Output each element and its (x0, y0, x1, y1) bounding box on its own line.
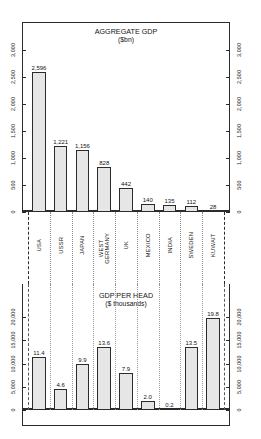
axis-tick (226, 364, 230, 365)
bar-value-label: 19.8 (202, 311, 224, 317)
axis-tick (226, 50, 230, 51)
category-label-ussr: USSR (57, 215, 63, 275)
category-label-uk: UK (123, 215, 129, 275)
top-plot-area: 005005001,0001,0001,5001,5002,0002,0002,… (22, 22, 230, 212)
category-label-japan: JAPAN (79, 215, 85, 275)
band-separator (202, 212, 203, 284)
axis-tick (22, 158, 26, 159)
bar-value-label: 140 (137, 197, 159, 203)
axis-tick-label: 10,000 (236, 355, 242, 372)
band-separator (72, 212, 73, 284)
axis-tick-label: 20,000 (10, 309, 16, 326)
category-guide-line (93, 284, 94, 410)
axis-tick (226, 387, 230, 388)
axis-tick (22, 387, 26, 388)
axis-tick (22, 50, 26, 51)
bottom-plot-area: 005,0005,00010,00010,00015,00015,00020,0… (22, 284, 230, 426)
category-label-line: USA (36, 215, 42, 275)
bar (97, 167, 111, 212)
axis-tick (22, 317, 26, 318)
category-guide-line-end (224, 284, 225, 410)
axis-tick (22, 364, 26, 365)
bar (185, 347, 199, 410)
bar-value-label: 7.9 (115, 366, 137, 372)
axis-tick-label: 500 (236, 180, 242, 189)
axis-tick (22, 410, 26, 411)
bar (54, 389, 68, 410)
bar-value-label: 0.2 (159, 402, 181, 408)
axis-tick-label: 3,000 (10, 43, 16, 57)
axis-tick-label: 2,000 (236, 97, 242, 111)
category-label-line: GERMANY (104, 218, 110, 278)
bar (141, 401, 155, 410)
band-separator (50, 212, 51, 284)
band-separator (159, 212, 160, 284)
bar-value-label: 13.5 (180, 340, 202, 346)
axis-tick-label: 15,000 (236, 332, 242, 349)
bar-value-label: 112 (180, 199, 202, 205)
category-guide-line-start (28, 284, 29, 410)
band-edge-right (224, 212, 225, 284)
axis-tick (22, 340, 26, 341)
bar-value-label: 28 (202, 204, 224, 210)
category-guide-line (137, 284, 138, 410)
axis-tick-label: 1,500 (236, 124, 242, 138)
axis-tick-label: 500 (10, 180, 16, 189)
axis-tick-label: 0 (10, 210, 16, 213)
category-guide-line (72, 284, 73, 410)
axis-tick (226, 158, 230, 159)
bar-value-label: 11.4 (28, 350, 50, 356)
bar-value-label: 9.9 (72, 357, 94, 363)
axis-tick-label: 20,000 (236, 309, 242, 326)
axis-tick-label: 0 (236, 408, 242, 411)
category-guide-line (202, 284, 203, 410)
axis-tick-label: 1,500 (10, 124, 16, 138)
axis-tick-label: 1,000 (236, 151, 242, 165)
bar-value-label: 828 (93, 160, 115, 166)
axis-tick (226, 317, 230, 318)
axis-tick-label: 10,000 (10, 355, 16, 372)
band-separator (93, 212, 94, 284)
axis-tick (22, 185, 26, 186)
bar (163, 408, 177, 410)
aggregate-gdp-chart: AGGREGATE GDP ($bn) 005005001,0001,0001,… (22, 22, 230, 212)
category-label-line: INDIA (166, 215, 172, 275)
axis-tick-label: 2,500 (236, 70, 242, 84)
gdp-per-head-chart: GDP PER HEAD ($ thousands) 005,0005,0001… (22, 284, 230, 426)
category-label-band: USAUSSRJAPANWESTGERMANYUKMEXICOINDIASWED… (22, 212, 230, 284)
band-edge-left (28, 212, 29, 284)
bar (141, 204, 155, 212)
category-label-line: USSR (57, 215, 63, 275)
category-label-line: JAPAN (79, 215, 85, 275)
category-label-india: INDIA (166, 215, 172, 275)
axis-tick-label: 2,500 (10, 70, 16, 84)
axis-tick-label: 15,000 (10, 332, 16, 349)
category-guide-line (115, 284, 116, 410)
category-label-west-germany: WESTGERMANY (98, 218, 111, 278)
category-label-line: UK (123, 215, 129, 275)
bar (119, 188, 133, 212)
category-label-kuwait: KUWAIT (210, 215, 216, 275)
band-separator (137, 212, 138, 284)
band-separator (180, 212, 181, 284)
chart-page: AGGREGATE GDP ($bn) 005005001,0001,0001,… (0, 0, 261, 439)
category-label-sweden: SWEDEN (188, 215, 194, 275)
axis-tick-label: 5,000 (10, 380, 16, 394)
band-separator (115, 212, 116, 284)
axis-tick (22, 131, 26, 132)
bar-value-label: 1,156 (72, 143, 94, 149)
bar (76, 150, 90, 212)
axis-tick-label: 2,000 (10, 97, 16, 111)
bar-value-label: 442 (115, 181, 137, 187)
bar-value-label: 135 (159, 198, 181, 204)
category-label-usa: USA (36, 215, 42, 275)
bar (163, 205, 177, 212)
axis-tick (226, 104, 230, 105)
category-guide-line (180, 284, 181, 410)
bar (32, 357, 46, 410)
bar (97, 347, 111, 410)
bar (32, 72, 46, 212)
axis-tick-label: 0 (236, 210, 242, 213)
axis-tick (22, 104, 26, 105)
axis-tick (226, 131, 230, 132)
